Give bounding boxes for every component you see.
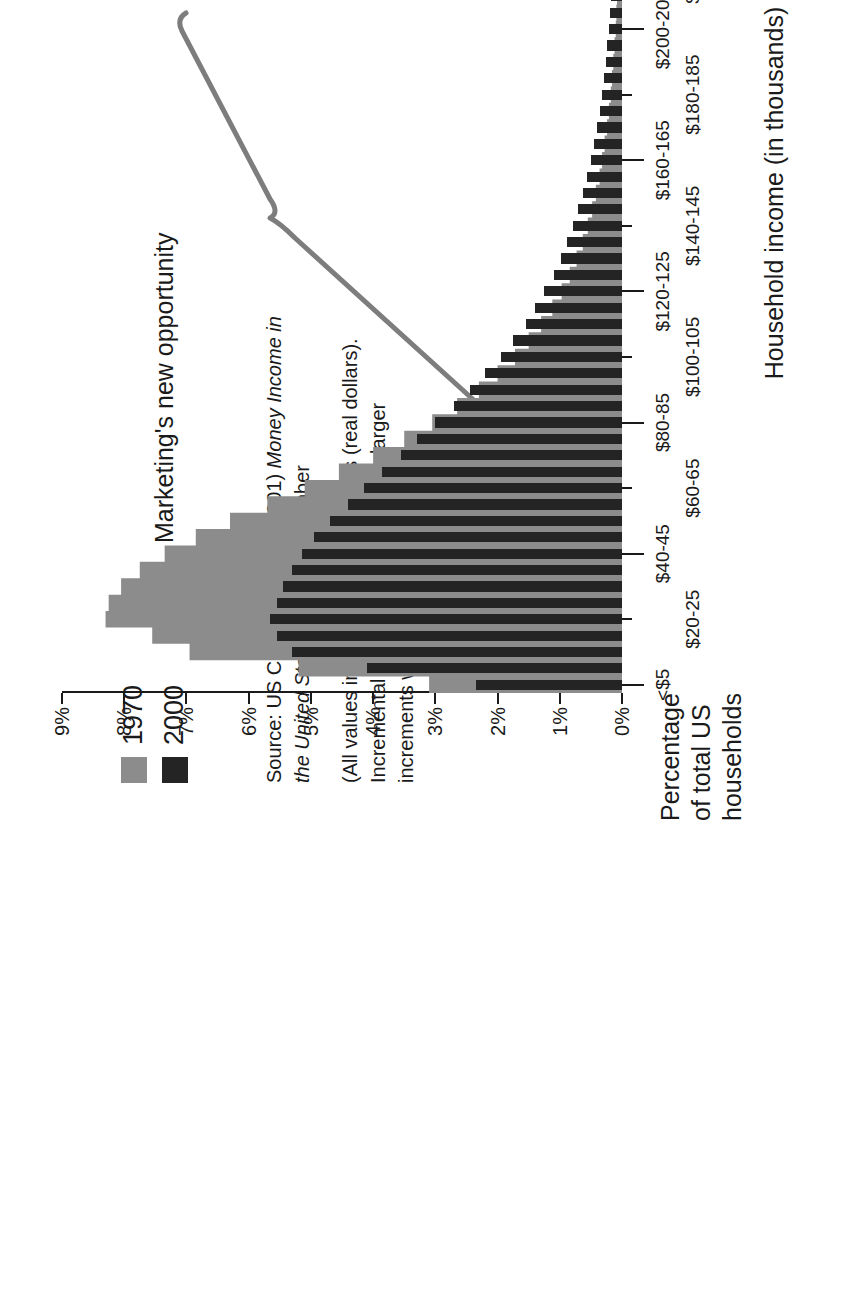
- bar: [277, 631, 622, 641]
- x-tick-label: $140-145: [683, 186, 702, 266]
- bar: [578, 204, 622, 214]
- plot-area: 0%1%2%3%4%5%6%7%8%9% <$5$20-25$40-45$60-…: [62, 0, 622, 693]
- legend-swatch-1970: [121, 757, 147, 783]
- x-tick-label: $20-25: [683, 590, 702, 649]
- x-tick-label: $220-225: [683, 0, 702, 4]
- bar: [367, 663, 622, 673]
- bar: [348, 499, 622, 509]
- x-tick: [622, 225, 632, 227]
- x-tick-label: $160-165: [653, 120, 672, 200]
- x-tick-label: $80-85: [653, 393, 672, 452]
- x-tick: [622, 290, 644, 292]
- bar: [401, 450, 622, 460]
- bar: [435, 417, 622, 427]
- rotated-figure-canvas: 1970 2000 Source: US Census Bureau (2001…: [0, 0, 843, 843]
- x-axis-title: Household income (in thousands): [760, 0, 789, 693]
- bar: [573, 221, 622, 231]
- bar: [270, 614, 622, 624]
- x-tick: [622, 684, 644, 686]
- bar: [561, 254, 622, 264]
- x-tick: [622, 487, 632, 489]
- bar: [470, 385, 622, 395]
- x-tick-label: $120-125: [653, 251, 672, 331]
- y-tick: [123, 693, 125, 704]
- bar: [611, 0, 622, 1]
- y-tick: [497, 693, 499, 704]
- bar: [606, 57, 622, 67]
- bar: [417, 434, 622, 444]
- y-axis-title-line-1: Percentage: [655, 693, 686, 821]
- y-tick-label: 4%: [363, 707, 383, 755]
- bar: [501, 352, 622, 362]
- x-tick: [622, 618, 632, 620]
- bar: [602, 90, 622, 100]
- bar: [283, 581, 622, 591]
- bar: [454, 401, 622, 411]
- x-tick-label: $40-45: [653, 524, 672, 583]
- x-tick: [622, 94, 632, 96]
- y-tick-label: 7%: [176, 707, 196, 755]
- y-tick: [559, 693, 561, 704]
- y-tick: [372, 693, 374, 704]
- y-tick-label: 1%: [550, 707, 570, 755]
- bar: [364, 483, 622, 493]
- bar: [513, 335, 622, 345]
- y-tick-label: 9%: [52, 707, 72, 755]
- y-tick-label: 6%: [239, 707, 259, 755]
- x-tick-label: $200-205: [653, 0, 672, 69]
- bar: [476, 680, 622, 690]
- y-tick: [434, 693, 436, 704]
- y-tick-label: 5%: [301, 707, 321, 755]
- bar: [604, 73, 622, 83]
- bar: [292, 565, 622, 575]
- y-axis-title: Percentage of total US households: [655, 693, 748, 821]
- x-tick: [622, 553, 644, 555]
- bar: [587, 172, 622, 182]
- x-tick-label: $180-185: [683, 54, 702, 134]
- y-axis-title-line-2: of total US: [686, 693, 717, 821]
- bar: [607, 40, 622, 50]
- bar: [535, 303, 622, 313]
- bar: [600, 106, 622, 116]
- y-tick: [248, 693, 250, 704]
- x-tick: [622, 159, 644, 161]
- bar: [382, 467, 622, 477]
- bar: [485, 368, 622, 378]
- y-tick: [621, 693, 623, 704]
- bar: [610, 8, 622, 18]
- x-tick-label: $60-65: [683, 459, 702, 518]
- x-tick-label: $100-105: [683, 317, 702, 397]
- bar: [554, 270, 622, 280]
- y-tick-label: 0%: [612, 707, 632, 755]
- bar: [292, 647, 622, 657]
- x-tick: [622, 422, 644, 424]
- series-bars-2000: [62, 0, 622, 693]
- chart-figure: 1970 2000 Source: US Census Bureau (2001…: [0, 0, 843, 843]
- bar: [594, 139, 622, 149]
- y-tick: [185, 693, 187, 704]
- bar: [277, 598, 622, 608]
- y-tick: [61, 693, 63, 704]
- x-tick: [622, 28, 644, 30]
- y-tick: [310, 693, 312, 704]
- bar: [544, 286, 622, 296]
- legend-swatch-2000: [162, 757, 188, 783]
- bar: [597, 122, 622, 132]
- bar: [591, 155, 622, 165]
- bar: [526, 319, 622, 329]
- bar: [583, 188, 622, 198]
- bar: [609, 24, 622, 34]
- bar: [330, 516, 622, 526]
- bar: [314, 532, 622, 542]
- bar: [567, 237, 622, 247]
- y-tick-label: 3%: [425, 707, 445, 755]
- y-axis-title-line-3: households: [717, 693, 748, 821]
- y-tick-label: 8%: [114, 707, 134, 755]
- x-tick: [622, 356, 632, 358]
- bar: [302, 549, 622, 559]
- y-tick-label: 2%: [488, 707, 508, 755]
- x-tick-label: <$5: [653, 669, 672, 701]
